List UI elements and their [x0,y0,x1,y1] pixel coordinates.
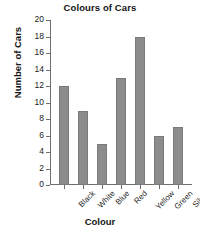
y-tick-mark [46,70,50,71]
y-tick-label: 18 [35,31,44,42]
y-tick-mark [46,119,50,120]
y-tick-label: 2 [39,163,44,174]
x-tick-label-blue: Blue [114,189,132,207]
y-tick-label: 20 [35,14,44,25]
y-axis-title: Number of Cars [12,8,23,118]
y-tick-mark [46,20,50,21]
y-tick-label: 12 [35,80,44,91]
x-tick-mark-red [121,185,122,189]
chart-title: Colours of Cars [0,2,200,13]
x-axis-title: Colour [0,216,200,227]
bar-chart-figure: Colours of Cars Number of Cars 024681012… [0,0,200,234]
plot-area: 02468101214161820 [50,20,192,185]
y-tick-mark [46,136,50,137]
x-tick-label-yellow: Yellow [154,189,177,212]
bar-green [154,136,164,186]
y-tick-label: 10 [35,97,44,108]
x-tick-mark-silver [178,185,179,189]
y-tick-label: 4 [39,146,44,157]
y-tick-mark [46,86,50,87]
bar-black [59,86,69,185]
y-tick-mark [46,53,50,54]
x-tick-label-black: Black [76,189,96,209]
bar-silver [173,127,183,185]
y-tick-label: 6 [39,130,44,141]
x-tick-label-red: Red [132,189,149,206]
y-tick-label: 14 [35,64,44,75]
y-tick-label: 8 [39,113,44,124]
y-tick-mark [46,103,50,104]
y-tick-mark [46,37,50,38]
x-tick-mark-yellow [140,185,141,189]
bar-yellow [135,37,145,186]
x-tick-mark-green [159,185,160,189]
y-tick-label: 0 [39,179,44,190]
x-tick-label-silver: Silver [191,189,200,210]
y-axis-line [50,20,51,185]
bar-white [78,111,88,185]
x-tick-label-green: Green [173,189,195,211]
bar-red [116,78,126,185]
y-tick-mark [46,152,50,153]
y-tick-mark [46,169,50,170]
y-tick-mark [46,185,50,186]
y-tick-label: 16 [35,47,44,58]
bar-blue [97,144,107,185]
x-tick-mark-blue [102,185,103,189]
x-tick-mark-black [64,185,65,189]
x-tick-mark-white [83,185,84,189]
